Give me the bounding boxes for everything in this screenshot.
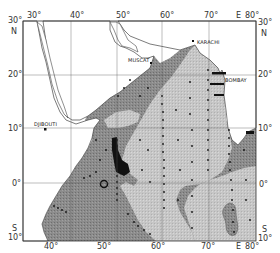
lat-label-right-0: 0° — [259, 181, 268, 189]
city-label-muscat: MUSCAT — [128, 58, 149, 63]
lon-label-top-60: 60° — [160, 12, 174, 20]
lat-label-right-s: S — [262, 226, 267, 234]
lon-label-top-50: 50° — [116, 12, 130, 20]
lon-label-top-30: 30° — [27, 12, 41, 20]
lon-label-top-70: 70° — [204, 12, 218, 20]
lat-label-right-n: N — [261, 30, 267, 38]
lon-label-top-e: E — [236, 12, 241, 20]
lat-label-right-30: 30° — [258, 19, 272, 27]
lat-label-right-20: 20° — [258, 71, 272, 79]
lat-label-left-20: 20° — [8, 71, 22, 79]
lat-label-left-10: 10° — [8, 125, 22, 133]
city-label-bombay: BOMBAY — [225, 78, 247, 83]
lat-label-right-10s: 10° — [258, 235, 272, 243]
map-figure: 30° 40° 50° 60° 70° E 80° 40° 50° 60° 70… — [0, 0, 280, 253]
lon-label-bottom-70: 70° — [201, 243, 215, 251]
lat-label-right-10: 10° — [258, 125, 272, 133]
lat-label-left-30: 30° — [8, 17, 22, 25]
lat-label-left-s: S — [12, 225, 17, 233]
city-label-djibouti: DJIBOUTI — [34, 122, 57, 127]
lon-label-top-40: 40° — [70, 12, 84, 20]
lat-label-left-n: N — [11, 28, 17, 36]
city-label-karachi: KARACHI — [197, 40, 220, 45]
lon-label-bottom-e: E — [236, 243, 241, 251]
lat-label-left-0: 0° — [12, 180, 21, 188]
lon-label-bottom-80: 80° — [245, 243, 259, 251]
lat-label-left-10s: 10° — [8, 234, 22, 242]
lon-label-bottom-60: 60° — [151, 243, 165, 251]
lon-label-bottom-40: 40° — [44, 243, 58, 251]
lon-label-bottom-50: 50° — [97, 243, 111, 251]
